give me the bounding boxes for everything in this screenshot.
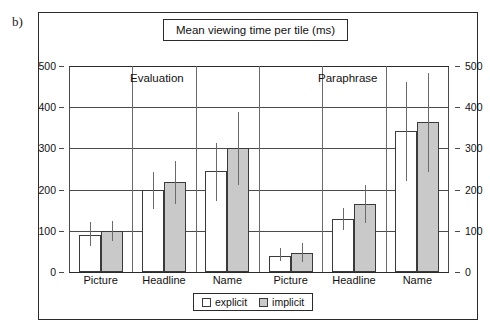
error-bar-explicit-1 <box>153 172 154 209</box>
y-tick-left-0: 0 <box>50 267 56 278</box>
y-tickmark-right-200 <box>455 190 460 191</box>
error-bar-explicit-2 <box>216 143 217 200</box>
plot-right-spine <box>448 66 449 272</box>
y-tick-left-200: 200 <box>38 185 56 196</box>
category-separator-1 <box>132 66 133 272</box>
legend-label-implicit: implicit <box>272 296 304 308</box>
y-tick-left-500: 500 <box>38 61 56 72</box>
error-bar-explicit-0 <box>90 222 91 247</box>
y-tickmark-left-400 <box>59 107 64 108</box>
chart-title: Mean viewing time per tile (ms) <box>163 19 348 41</box>
plot-area <box>69 66 449 272</box>
error-bar-implicit-2 <box>238 112 239 185</box>
y-tickmark-right-300 <box>455 148 460 149</box>
plot-left-spine <box>69 66 70 272</box>
error-bar-implicit-1 <box>175 161 176 204</box>
y-tickmark-right-500 <box>455 66 460 67</box>
figure-root: b) Mean viewing time per tile (ms) 01002… <box>0 0 490 335</box>
panel-letter: b) <box>12 14 23 30</box>
y-tickmark-left-200 <box>59 190 64 191</box>
category-separator-4 <box>322 66 323 272</box>
legend-label-explicit: explicit <box>215 296 247 308</box>
error-bar-implicit-3 <box>302 243 303 262</box>
gridline-0 <box>69 272 449 273</box>
gray-square-icon <box>259 298 268 307</box>
error-bar-implicit-4 <box>365 185 366 224</box>
y-axis-right: 0100200300400500 <box>455 66 485 272</box>
category-separator-2 <box>196 66 197 272</box>
y-tick-right-400: 400 <box>465 102 483 113</box>
y-tick-right-200: 200 <box>465 185 483 196</box>
category-separator-5 <box>386 66 387 272</box>
y-tick-right-0: 0 <box>465 267 471 278</box>
error-bar-explicit-5 <box>406 82 407 181</box>
y-tickmark-left-500 <box>59 66 64 67</box>
error-bar-implicit-0 <box>112 221 113 242</box>
legend-item-explicit: explicit <box>202 296 247 308</box>
y-tick-right-300: 300 <box>465 143 483 154</box>
legend-item-implicit: implicit <box>259 296 304 308</box>
y-tickmark-left-300 <box>59 148 64 149</box>
y-axis-left: 0100200300400500 <box>38 66 64 272</box>
error-bar-explicit-3 <box>280 248 281 261</box>
y-tickmark-left-0 <box>59 272 64 273</box>
y-tickmark-right-400 <box>455 107 460 108</box>
y-tick-left-400: 400 <box>38 102 56 113</box>
white-square-icon <box>202 298 211 307</box>
x-label-paraphrase-name: Name <box>377 274 457 286</box>
category-separator-3 <box>259 66 260 272</box>
y-tick-left-100: 100 <box>38 226 56 237</box>
error-bar-explicit-4 <box>343 208 344 229</box>
chart-legend: explicit implicit <box>193 293 313 311</box>
group-label-paraphrase: Paraphrase <box>318 72 377 84</box>
y-tick-left-300: 300 <box>38 143 56 154</box>
y-tick-right-100: 100 <box>465 226 483 237</box>
error-bar-implicit-5 <box>428 73 429 172</box>
y-tickmark-right-100 <box>455 231 460 232</box>
chart-title-text: Mean viewing time per tile (ms) <box>176 24 335 36</box>
y-tickmark-left-100 <box>59 231 64 232</box>
group-label-evaluation: Evaluation <box>130 72 184 84</box>
y-tickmark-right-0 <box>455 272 460 273</box>
y-tick-right-500: 500 <box>465 61 483 72</box>
